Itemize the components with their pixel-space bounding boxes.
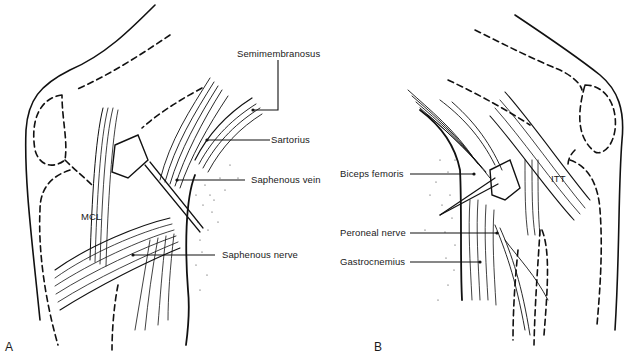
label-gastrocnemius: Gastrocnemius: [340, 257, 405, 267]
label-semimembranosus: Semimembranosus: [237, 49, 320, 59]
label-biceps-femoris: Biceps femoris: [340, 169, 404, 179]
panel-letter-a: A: [5, 341, 13, 353]
panel-letter-b: B: [374, 341, 382, 353]
label-peroneal-nerve: Peroneal nerve: [340, 228, 406, 238]
label-itt: ITT: [551, 174, 566, 184]
label-saphenous-vein: Saphenous vein: [251, 175, 321, 185]
label-sartorius: Sartorius: [271, 135, 310, 145]
label-saphenous-nerve: Saphenous nerve: [222, 250, 298, 260]
label-mcl: MCL: [81, 212, 101, 222]
anatomy-figure: Semimembranosus Sartorius Saphenous vein…: [0, 0, 630, 363]
